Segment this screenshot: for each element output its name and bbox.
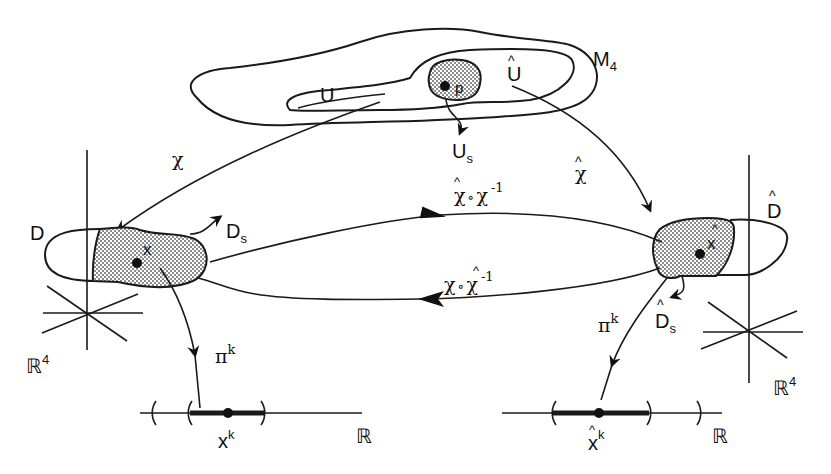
right-projection-tail [601,365,612,400]
D-s-subscript: s [240,231,247,246]
right-line-space-label: ℝ [712,425,728,447]
U-hat-hat: ^ [508,53,515,69]
point-label: p [455,79,463,96]
D-hat-s-label: Ds [655,310,676,336]
ft-op: ∘ [468,189,475,205]
left-line-point [223,408,233,418]
D-hat-s-shaded-region [653,218,734,278]
right-point-label: x [707,234,716,253]
D-s-label: Ds [226,220,247,246]
right-line-point-hat: ^ [589,422,596,437]
D-s-base: D [226,220,240,242]
D-hat-s-subscript: s [669,321,676,336]
manifold-region: p U U ^ M4 Us [191,29,617,166]
lp-superscript: k [228,342,236,357]
backward-transition-label: χ∘χ-1 [444,269,494,295]
left-space-superscript: 4 [42,352,49,367]
D-hat-s-pointer-arrow [672,276,684,297]
left-real-line: xk ℝ [140,401,372,452]
left-line-point-label: xk [218,427,235,452]
backward-transition-hat: ^ [473,263,480,278]
ft-exponent: -1 [491,180,504,195]
D-s-pointer-arrow [190,217,220,234]
rp-superscript: k [611,311,619,326]
lp-base: π [215,345,228,367]
bt-left: χ [444,273,456,295]
right-real-line: xk ^ ℝ [502,401,728,454]
right-line-point [594,408,604,418]
U-s-subscript: s [466,151,473,166]
right-space-superscript: 4 [789,374,796,389]
chi-label: χ [172,148,184,170]
right-space-label: ℝ4 [773,374,796,399]
right-projection-label: πk [598,311,619,336]
D-hat-hat: ^ [769,188,776,204]
right-chart: x ^ D ^ Ds ^ ℝ4 [653,155,803,399]
D-label: D [30,222,44,244]
forward-transition-arrowhead [420,206,447,219]
D-hat-s-base: D [655,310,669,332]
right-point-marker [695,249,705,259]
left-line-space-label: ℝ [356,425,372,447]
left-projection-tail [195,355,200,408]
bt-exponent: -1 [481,269,494,284]
left-projection-label: πk [215,342,236,367]
chi-hat-hat: ^ [575,154,582,170]
manifold-subscript: 4 [610,59,617,74]
ft-right: χ [476,184,488,206]
bt-op: ∘ [458,278,465,294]
left-space-base: ℝ [26,355,42,377]
point-p-marker [440,81,450,91]
left-point-label: x [143,240,152,259]
manifold-label-base: M [593,48,610,70]
chart-transition-diagram: p U U ^ M4 Us χ χ ^ x D Ds ℝ4 [0,0,831,474]
U-inner-stroke [298,94,385,108]
U-s-label: Us [452,140,473,166]
rlp-superscript: k [598,427,605,442]
backward-transition-curve [198,268,660,299]
chi-hat-map-arrow [512,86,650,210]
forward-transition-curve [210,213,662,262]
left-space-label: ℝ4 [26,352,49,377]
left-point-marker [132,258,142,268]
right-space-base: ℝ [773,377,789,399]
D-hat-s-hat: ^ [657,297,664,313]
left-chart: x D Ds ℝ4 [26,150,247,377]
llp-base: x [218,430,228,452]
chi-map-arrow [118,102,380,230]
right-point-hat: ^ [712,222,718,236]
rp-base: π [598,314,611,336]
llp-superscript: k [228,427,235,442]
U-label: U [320,84,334,106]
U-s-base: U [452,140,466,162]
forward-transition-hat: ^ [454,174,461,189]
forward-transition-label: χ∘χ-1 [454,180,504,206]
